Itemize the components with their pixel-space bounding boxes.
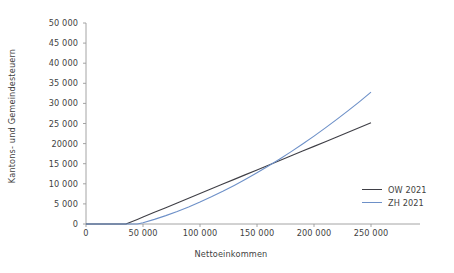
x-axis-label: Nettoeinkommen bbox=[86, 249, 376, 259]
x-tick-label: 50 000 bbox=[128, 228, 157, 238]
x-tick-label: 150 000 bbox=[240, 228, 275, 238]
legend-line-swatch-icon bbox=[362, 202, 382, 203]
legend-item-label: ZH 2021 bbox=[388, 198, 424, 208]
x-tick-label: 100 000 bbox=[183, 228, 218, 238]
legend-item-ow-2021[interactable]: OW 2021 bbox=[362, 183, 450, 196]
series-line-ow-2021 bbox=[86, 123, 371, 224]
legend-item-label: OW 2021 bbox=[388, 185, 427, 195]
series-line-zh-2021 bbox=[86, 92, 371, 224]
legend-line-swatch-icon bbox=[362, 189, 382, 190]
data-series bbox=[86, 92, 371, 224]
chart-legend: OW 2021ZH 2021 bbox=[362, 183, 450, 209]
x-tick-label: 200 000 bbox=[297, 228, 332, 238]
x-tick-label: 0 bbox=[83, 228, 88, 238]
x-axis-tick-labels: 050 000100 000150 000200 000250 000 bbox=[0, 228, 454, 244]
chart-container: Kantons- und Gemeindesteuern 05 00010 00… bbox=[0, 0, 454, 273]
legend-item-zh-2021[interactable]: ZH 2021 bbox=[362, 196, 450, 209]
x-tick-label: 250 000 bbox=[354, 228, 389, 238]
